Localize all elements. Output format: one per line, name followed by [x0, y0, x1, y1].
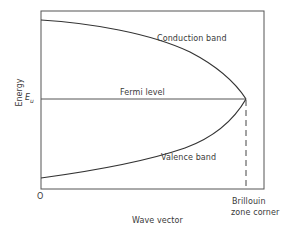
fermi-level-label: Fermi level [120, 88, 165, 97]
y-axis-label: Energy [15, 78, 24, 108]
brillouin-label-line1: Brillouin [232, 197, 266, 206]
conduction-band-label: Conduction band [157, 34, 227, 43]
brillouin-label-line2: zone corner [231, 208, 279, 217]
fermi-energy-symbol: Eu [25, 93, 34, 104]
origin-label: O [37, 192, 43, 201]
valence-band-label: Valence band [161, 153, 216, 162]
x-axis-label: Wave vector [132, 216, 183, 225]
fermi-energy-subscript: u [30, 97, 34, 104]
valence-band-curve [41, 99, 246, 178]
